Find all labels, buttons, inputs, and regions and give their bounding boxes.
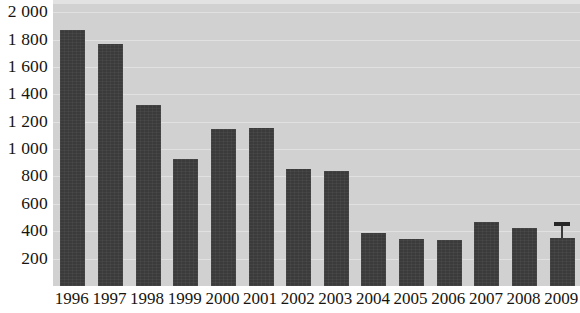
bar xyxy=(437,240,462,286)
gridline-1800 xyxy=(53,40,580,41)
y-axis-tick-label: 1 200 xyxy=(0,113,48,131)
y-axis-tick-label: 1 000 xyxy=(0,140,48,158)
bar xyxy=(136,105,161,286)
x-axis-tick-label: 2009 xyxy=(539,288,580,310)
y-axis-tick-label: 2 000 xyxy=(0,3,48,21)
gridline-1600 xyxy=(53,67,580,68)
bar xyxy=(550,238,575,286)
y-axis-tick-label: 400 xyxy=(0,222,48,240)
bar xyxy=(474,222,499,286)
gridline-600 xyxy=(53,204,580,205)
bar xyxy=(512,228,537,286)
bar xyxy=(60,30,85,286)
y-axis: 2004006008001 0001 2001 4001 6001 8002 0… xyxy=(0,0,50,290)
gridline-200 xyxy=(53,259,580,260)
y-axis-tick-label: 200 xyxy=(0,250,48,268)
bar xyxy=(211,129,236,286)
bar xyxy=(399,239,424,286)
plot-area xyxy=(53,4,580,286)
y-axis-tick-label: 1 800 xyxy=(0,31,48,49)
gridline-1000 xyxy=(53,149,580,150)
bar xyxy=(249,128,274,286)
gridline-1200 xyxy=(53,122,580,123)
bar xyxy=(361,233,386,286)
bar xyxy=(324,171,349,286)
y-axis-tick-label: 800 xyxy=(0,167,48,185)
bar xyxy=(286,169,311,286)
y-axis-tick-label: 1 400 xyxy=(0,85,48,103)
gridline-800 xyxy=(53,176,580,177)
gridline-400 xyxy=(53,231,580,232)
error-bar-cap xyxy=(554,222,570,226)
bar xyxy=(173,159,198,286)
x-axis: 1996199719981999200020012002200320042005… xyxy=(53,288,580,313)
bar xyxy=(98,44,123,286)
y-axis-tick-label: 1 600 xyxy=(0,58,48,76)
gridline-1400 xyxy=(53,94,580,95)
gridline-2000 xyxy=(53,12,580,13)
bar-chart: 2004006008001 0001 2001 4001 6001 8002 0… xyxy=(0,0,580,313)
y-axis-tick-label: 600 xyxy=(0,195,48,213)
